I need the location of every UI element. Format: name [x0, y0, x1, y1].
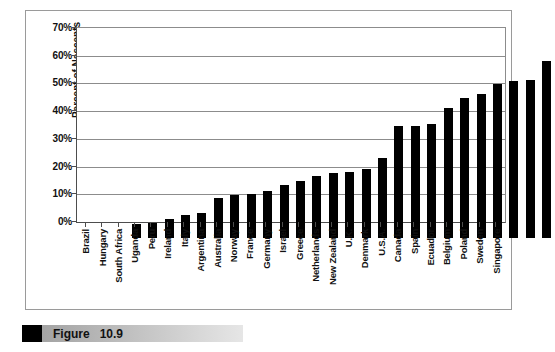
x-axis-tick-slot [405, 222, 421, 227]
x-axis-tick-slot [192, 222, 208, 227]
x-axis-tick-mark [101, 222, 102, 227]
x-axis-tick-label: Ireland [162, 229, 173, 259]
x-axis-label-slot: Uganda [126, 229, 142, 307]
x-axis-tick-slot [422, 222, 438, 227]
x-axis-tick-label: New Zealand [326, 229, 337, 285]
x-axis-tick-label: U.S.A. [375, 229, 386, 256]
x-axis-tick-mark [200, 222, 201, 227]
x-axis-tick-slot [241, 222, 257, 227]
x-axis-tick-label: Germany [260, 229, 271, 269]
x-axis-tick-labels: BrazilHungarySouth AfricaUgandaPeruIrela… [77, 229, 504, 307]
x-axis-label-slot: New Zealand [323, 229, 339, 307]
bar-slot [539, 44, 555, 238]
x-axis-tick-mark [134, 222, 135, 227]
gridline [77, 194, 505, 195]
x-axis-tick-mark [397, 222, 398, 227]
x-axis-tick-mark [298, 222, 299, 227]
x-axis-label-slot: France [241, 229, 257, 307]
x-axis-tick-marks [77, 222, 504, 227]
bar-slot [144, 44, 160, 238]
y-axis-tick-label: 10% [53, 188, 72, 199]
bar-slot [489, 44, 505, 238]
x-axis-tick-slot [110, 222, 126, 227]
x-axis-tick-mark [183, 222, 184, 227]
x-axis-tick-label: Norway [228, 229, 239, 262]
bar-slot [161, 44, 177, 238]
x-axis-tick-slot [274, 222, 290, 227]
y-axis-tick-label: 0% [58, 216, 72, 227]
x-axis-tick-slot [290, 222, 306, 227]
x-axis-label-slot: Italy [176, 229, 192, 307]
x-axis-tick-mark [331, 222, 332, 227]
x-axis-label-slot: Netherlands [307, 229, 323, 307]
x-axis-label-slot: Denmark [356, 229, 372, 307]
x-axis-label-slot: U.S.A. [373, 229, 389, 307]
x-axis-tick-slot [258, 222, 274, 227]
bar-series [128, 44, 555, 238]
x-axis-tick-label: Greece [293, 229, 304, 260]
x-axis-tick-slot [93, 222, 109, 227]
x-axis-label-slot: Greece [290, 229, 306, 307]
x-axis-label-slot: U.K. [340, 229, 356, 307]
x-axis-tick-label: France [244, 229, 255, 259]
x-axis-tick-label: Uganda [129, 229, 140, 263]
bar-slot [407, 44, 423, 238]
bar-slot [276, 44, 292, 238]
figure-caption-text: Figure 10.9 [42, 327, 123, 341]
x-axis-tick-slot [208, 222, 224, 227]
x-axis-tick-slot [389, 222, 405, 227]
x-axis-tick-mark [380, 222, 381, 227]
x-axis-tick-label: Brazil [80, 229, 91, 254]
bar-slot [506, 44, 522, 238]
bar-slot [243, 44, 259, 238]
x-axis-label-slot: Australia [208, 229, 224, 307]
bar-slot [227, 44, 243, 238]
bar [542, 61, 551, 238]
x-axis-tick-slot [176, 222, 192, 227]
x-axis-label-slot: Peru [143, 229, 159, 307]
x-axis-label-slot: Canada [389, 229, 405, 307]
x-axis-tick-mark [430, 222, 431, 227]
x-axis-label-slot: Brazil [77, 229, 93, 307]
bar-slot [292, 44, 308, 238]
bar [444, 108, 453, 238]
x-axis-tick-label: U.K. [342, 229, 353, 247]
caption-marker-square [22, 325, 42, 342]
x-axis-label-slot: Argentina [192, 229, 208, 307]
y-axis-tick-labels: 70%60%50%40%30%20%10%0% [26, 27, 72, 221]
y-axis-tick-label: 50% [53, 77, 72, 88]
x-axis-label-slot: Ireland [159, 229, 175, 307]
x-axis-tick-mark [85, 222, 86, 227]
bar-slot [391, 44, 407, 238]
x-axis-tick-mark [462, 222, 463, 227]
x-axis-tick-label: Israel [277, 229, 288, 253]
bar-slot [440, 44, 456, 238]
bar [493, 84, 502, 238]
bar-slot [341, 44, 357, 238]
bar-slot [194, 44, 210, 238]
x-axis-tick-slot [340, 222, 356, 227]
x-axis-tick-label: Poland [457, 229, 468, 259]
x-axis-tick-slot [455, 222, 471, 227]
gridline [77, 56, 505, 57]
x-axis-label-slot: Sweden [471, 229, 487, 307]
bar-slot [128, 44, 144, 238]
x-axis-label-slot: Belgium [438, 229, 454, 307]
bar-slot [522, 44, 538, 238]
x-axis-tick-mark [479, 222, 480, 227]
x-axis-tick-mark [495, 222, 496, 227]
bar [427, 124, 436, 238]
x-axis-tick-label: Italy [178, 229, 189, 247]
y-axis-tick-label: 70% [53, 22, 72, 33]
x-axis-tick-label: Canada [392, 229, 403, 262]
x-axis-tick-mark [413, 222, 414, 227]
x-axis-label-slot: Norway [225, 229, 241, 307]
x-axis-tick-mark [216, 222, 217, 227]
x-axis-tick-slot [488, 222, 504, 227]
x-axis-tick-label: Hungary [96, 229, 107, 266]
x-axis-label-slot: Spain [405, 229, 421, 307]
x-axis-tick-label: Peru [145, 229, 156, 249]
y-axis-tick-label: 20% [53, 160, 72, 171]
y-axis-tick-label: 60% [53, 49, 72, 60]
x-axis-tick-slot [356, 222, 372, 227]
